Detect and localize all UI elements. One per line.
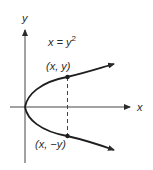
y-axis-label: y (21, 12, 29, 24)
equation-label: x = y2 (47, 34, 77, 48)
equation-exponent: 2 (72, 34, 77, 43)
equation-text: x = y (47, 36, 73, 48)
point-lower (65, 134, 69, 138)
x-axis-label: x (136, 101, 143, 113)
point-upper (65, 75, 69, 79)
point-lower-label: (x, −y) (35, 138, 66, 150)
parabola-diagram: y x x = y2 (x, y) (x, −y) (0, 0, 153, 170)
point-upper-label: (x, y) (46, 60, 71, 72)
